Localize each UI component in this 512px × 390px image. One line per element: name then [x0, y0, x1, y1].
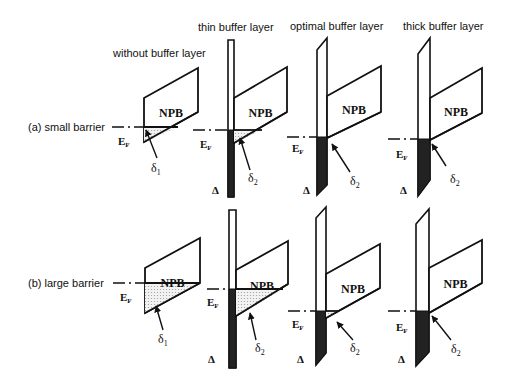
- row-label: (b) large barrier: [28, 277, 104, 289]
- column-header: thin buffer layer: [198, 21, 274, 33]
- fermi-level-label: EF: [292, 318, 304, 332]
- column-header: without buffer layer: [112, 47, 206, 59]
- panel-a-thick: NPBEFδ2Δ: [388, 38, 482, 196]
- row-labels: (a) small barrier(b) large barrier: [28, 121, 105, 289]
- dipole-delta-label: Δ: [212, 184, 219, 196]
- pointer-arrow: [337, 322, 353, 340]
- delta-label: δ2: [255, 341, 265, 357]
- band-panels: NPBEFδ1NPBEFδ2ΔNPBEFδ2ΔNPBEFδ2ΔNPBEFδ1NP…: [112, 38, 482, 368]
- panel-a-thin: NPBEFδ2Δ: [193, 40, 287, 197]
- pointer-arrow: [156, 306, 163, 330]
- dipole-delta-label: Δ: [400, 184, 407, 196]
- delta-label: δ2: [248, 171, 258, 187]
- pointer-arrow: [432, 316, 451, 340]
- fermi-level-label: EF: [396, 321, 408, 335]
- filled-states: [229, 289, 236, 368]
- filled-states: [418, 139, 430, 196]
- column-header: thick buffer layer: [403, 20, 484, 32]
- pointer-arrow: [432, 144, 446, 166]
- panel-b-thick: NPBEFδ2Δ: [388, 209, 482, 366]
- delta-label: δ2: [451, 342, 461, 358]
- panel-b-without: NPBEFδ1: [113, 238, 200, 348]
- npb-label: NPB: [249, 106, 273, 120]
- npb-label: NPB: [159, 106, 183, 120]
- delta-label: δ1: [158, 332, 168, 348]
- delta-label: δ2: [450, 172, 460, 188]
- dipole-delta-label: Δ: [303, 184, 310, 196]
- pointer-arrow: [250, 313, 256, 340]
- column-header: optimal buffer layer: [290, 20, 384, 32]
- energy-band-diagram: without buffer layerthin buffer layeropt…: [0, 0, 512, 390]
- fermi-level-label: EF: [207, 296, 219, 310]
- filled-states: [416, 311, 429, 366]
- panel-b-thin: NPBEFδ2Δ: [207, 210, 288, 368]
- dipole-delta-label: Δ: [398, 353, 405, 365]
- dipole-delta-label: Δ: [297, 353, 304, 365]
- pointer-arrow: [240, 138, 250, 170]
- npb-label: NPB: [341, 282, 365, 296]
- npb-label: NPB: [250, 279, 274, 293]
- npb-label: NPB: [444, 105, 468, 119]
- fermi-level-label: EF: [120, 291, 132, 305]
- panel-b-optimal: NPBEFδ2Δ: [288, 207, 380, 365]
- dipole-delta-label: Δ: [208, 353, 215, 365]
- fermi-level-label: EF: [118, 135, 130, 149]
- pointer-arrow: [332, 144, 350, 172]
- row-label: (a) small barrier: [28, 121, 105, 133]
- panel-a-without: NPBEFδ1: [112, 68, 198, 177]
- delta-label: δ2: [350, 341, 360, 357]
- fermi-level-label: EF: [200, 138, 212, 152]
- npb-label: NPB: [342, 103, 366, 117]
- fermi-level-label: EF: [396, 148, 408, 162]
- filled-states: [317, 137, 327, 195]
- fermi-level-label: EF: [292, 142, 304, 156]
- panel-a-optimal: NPBEFδ2Δ: [287, 38, 381, 196]
- filled-states: [316, 311, 326, 365]
- npb-label: NPB: [444, 277, 468, 291]
- npb-label: NPB: [161, 276, 185, 290]
- delta-label: δ1: [151, 161, 161, 177]
- delta-label: δ2: [350, 174, 360, 190]
